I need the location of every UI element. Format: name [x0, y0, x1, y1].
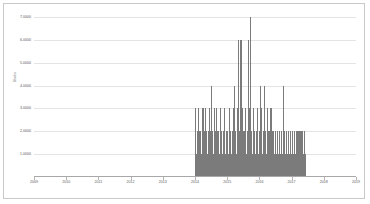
x-axis-tick-label: 2018 — [320, 180, 328, 184]
x-axis-tick-label: 2012 — [127, 180, 135, 184]
x-axis-tick-label: 2014 — [191, 180, 199, 184]
y-axis-title: Blocks — [10, 42, 20, 82]
x-axis-tick-label: 2016 — [255, 180, 263, 184]
bar — [305, 154, 306, 177]
gridline — [34, 17, 356, 18]
x-axis-tick-label: 2011 — [95, 180, 103, 184]
y-axis-tick-label: 1.0000 — [20, 152, 31, 156]
gridline — [34, 63, 356, 64]
x-axis-tick-label: 2010 — [62, 180, 70, 184]
x-axis-tick-label: 2009 — [30, 180, 38, 184]
x-axis-tick-label: 2017 — [288, 180, 296, 184]
gridline — [34, 40, 356, 41]
x-axis-tick-label: 2015 — [223, 180, 231, 184]
x-axis-tick-label: 2019 — [352, 180, 360, 184]
y-axis-tick-label: 3.0000 — [20, 106, 31, 110]
y-axis-tick-label: 6.0000 — [20, 38, 31, 42]
y-axis-tick-label: 2.0000 — [20, 129, 31, 133]
gridline — [34, 86, 356, 87]
y-axis-tick-label: 4.0000 — [20, 84, 31, 88]
plot-area: 1.00002.00003.00004.00005.00006.00007.00… — [34, 17, 356, 177]
y-axis-tick-label: 7.0000 — [20, 15, 31, 19]
chart-frame: Blocks 1.00002.00003.00004.00005.00006.0… — [3, 3, 365, 199]
x-axis-tick-label: 2013 — [159, 180, 167, 184]
y-axis-tick-label: 5.0000 — [20, 61, 31, 65]
